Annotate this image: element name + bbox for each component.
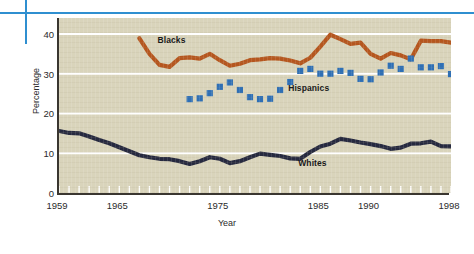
data-marker bbox=[217, 84, 223, 90]
data-marker bbox=[388, 63, 394, 69]
data-marker bbox=[357, 76, 363, 82]
data-marker bbox=[257, 96, 263, 102]
plot-area bbox=[57, 18, 451, 193]
x-tick-label: 1975 bbox=[207, 200, 228, 211]
x-tick-label: 1959 bbox=[46, 200, 67, 211]
y-tick-label: 20 bbox=[20, 108, 54, 119]
data-marker bbox=[337, 68, 343, 74]
series-label-blacks: Blacks bbox=[158, 35, 186, 45]
data-marker bbox=[277, 87, 283, 93]
y-tick-label: 10 bbox=[20, 148, 54, 159]
data-marker bbox=[227, 79, 233, 85]
x-tick-label: 1998 bbox=[438, 200, 459, 211]
data-marker bbox=[418, 64, 424, 70]
y-tick-label: 30 bbox=[20, 68, 54, 79]
data-marker bbox=[297, 68, 303, 74]
data-marker bbox=[428, 64, 434, 70]
x-axis-title-text: Year bbox=[218, 218, 236, 228]
y-tick-label: 40 bbox=[20, 28, 54, 39]
data-marker bbox=[347, 70, 353, 76]
data-marker bbox=[187, 96, 193, 102]
y-tick-label: 0 bbox=[20, 188, 54, 199]
data-marker bbox=[398, 66, 404, 72]
data-marker bbox=[267, 96, 273, 102]
data-marker bbox=[367, 76, 373, 82]
series-whites bbox=[59, 131, 451, 164]
x-tick-label: 1965 bbox=[107, 200, 128, 211]
data-marker bbox=[408, 55, 414, 61]
x-axis-line bbox=[57, 193, 449, 195]
data-marker bbox=[327, 71, 333, 77]
data-marker bbox=[237, 87, 243, 93]
figure-container: Percentage 010203040 1959196519751985199… bbox=[0, 0, 474, 254]
data-marker bbox=[378, 69, 384, 75]
y-axis-ticks: 010203040 bbox=[14, 18, 54, 193]
x-tick-label: 1985 bbox=[308, 200, 329, 211]
series-label-whites: Whites bbox=[298, 158, 326, 168]
data-marker bbox=[317, 71, 323, 77]
x-axis-title: Year bbox=[0, 218, 474, 228]
data-marker bbox=[307, 66, 313, 72]
series-blacks bbox=[139, 35, 451, 67]
data-marker bbox=[448, 71, 451, 77]
series-label-hispanics: Hispanics bbox=[288, 83, 329, 93]
decorative-rule-top bbox=[0, 12, 474, 14]
data-marker bbox=[247, 94, 253, 100]
data-marker bbox=[438, 63, 444, 69]
x-tick-label: 1990 bbox=[358, 200, 379, 211]
x-axis-ticks: 195919651975198519901998 bbox=[57, 200, 449, 216]
data-marker bbox=[207, 90, 213, 96]
data-marker bbox=[197, 95, 203, 101]
chart-svg bbox=[59, 18, 451, 193]
